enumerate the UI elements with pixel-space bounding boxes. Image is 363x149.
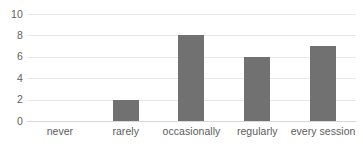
y-axis: 10 8 6 4 2 0 bbox=[0, 14, 23, 121]
bar-chart: 10 8 6 4 2 0 never rarely occasionally r… bbox=[0, 0, 363, 149]
y-tick-label: 8 bbox=[1, 30, 23, 41]
bar-slot bbox=[224, 14, 290, 121]
bar bbox=[244, 57, 270, 121]
y-tick-label: 4 bbox=[1, 73, 23, 84]
axis-baseline bbox=[27, 121, 356, 122]
bar-series bbox=[27, 14, 356, 121]
x-tick-label: regularly bbox=[224, 125, 290, 138]
bar-slot bbox=[93, 14, 159, 121]
x-axis: never rarely occasionally regularly ever… bbox=[27, 125, 356, 138]
bar-slot bbox=[290, 14, 356, 121]
x-tick-label: rarely bbox=[93, 125, 159, 138]
x-tick-label: occasionally bbox=[159, 125, 225, 138]
bar bbox=[113, 100, 139, 121]
y-tick-label: 6 bbox=[1, 51, 23, 62]
y-tick-label: 0 bbox=[1, 116, 23, 127]
bar bbox=[310, 46, 336, 121]
y-tick-label: 2 bbox=[1, 94, 23, 105]
x-tick-label: never bbox=[27, 125, 93, 138]
bar-slot bbox=[159, 14, 225, 121]
bar bbox=[178, 35, 204, 121]
x-tick-label: every session bbox=[290, 125, 356, 138]
bar-slot bbox=[27, 14, 93, 121]
y-tick-label: 10 bbox=[1, 9, 23, 20]
